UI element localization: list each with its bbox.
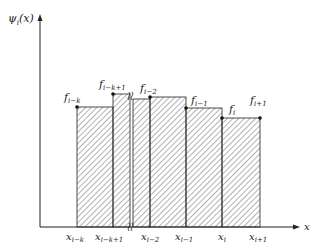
bar-i-2a	[133, 99, 150, 227]
bar-i-2	[150, 97, 186, 227]
label-f-i: fi	[228, 103, 235, 117]
x-axis-arrow-icon	[293, 225, 300, 230]
tick-x-i-2: xi−2	[141, 231, 160, 244]
bar-i	[222, 118, 260, 227]
label-f-i-2: fi−2	[139, 82, 157, 96]
tick-x-i-k: xi−k	[66, 231, 84, 244]
y-axis-label: ψi(x)	[8, 12, 34, 27]
point-f-i-k	[75, 105, 79, 109]
bar-i-k	[77, 107, 113, 227]
x-axis-label: x	[304, 221, 310, 232]
point-f-i-1	[184, 106, 188, 110]
step-function-diagram: ψi(x) x fi−k fi−k+1 fi−2 fi−1 fi fi+1 xi…	[0, 0, 318, 251]
tick-x-i+1: xi+1	[249, 231, 267, 244]
label-f-i-k: fi−k	[63, 91, 80, 105]
point-f-i+1	[258, 116, 262, 120]
y-axis-arrow-icon	[38, 14, 43, 21]
label-f-i+1: fi+1	[249, 94, 267, 108]
x-tick-labels: xi−k xi−k+1 xi−2 xi−1 xi xi+1	[66, 231, 267, 244]
point-f-i	[220, 116, 224, 120]
tick-x-i-k+1: xi−k+1	[95, 231, 123, 244]
label-f-i-k+1: fi−k+1	[98, 78, 126, 92]
point-f-i-k+1	[111, 92, 115, 96]
label-f-i-1: fi−1	[190, 94, 208, 108]
bar-i-k+1	[113, 94, 130, 227]
tick-x-i: xi	[218, 231, 226, 244]
tick-x-i-1: xi−1	[175, 231, 193, 244]
bar-i-1	[186, 108, 222, 227]
